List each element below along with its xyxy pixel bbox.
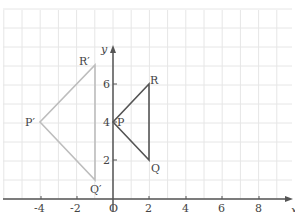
vertex-label-r-prime: R′ (79, 55, 90, 68)
x-axis-arrow-icon (285, 196, 293, 202)
x-tick-label: 6 (218, 202, 225, 212)
vertex-label-p-prime: P′ (25, 116, 35, 129)
x-tick-label: 2 (145, 202, 152, 212)
x-tick-label: -2 (70, 202, 81, 212)
y-tick-label: 6 (103, 78, 110, 91)
vertex-label-p: P (117, 116, 125, 129)
y-tick-label: 4 (103, 116, 110, 129)
x-axis-label: x (291, 204, 295, 212)
grid (3, 9, 292, 199)
origin-label: O (109, 202, 118, 212)
coordinate-plane: y x O -4 -2 2 4 6 8 2 4 6 P′ Q′ R′ P Q R (0, 0, 295, 212)
y-axis-label: y (100, 43, 108, 56)
vertex-label-q: Q (151, 162, 160, 175)
vertex-label-q-prime: Q′ (90, 183, 102, 196)
vertex-label-r: R (150, 74, 159, 87)
y-axis-arrow-icon (110, 45, 116, 53)
x-tick-label: -4 (34, 202, 45, 212)
x-tick-label: 8 (255, 202, 262, 212)
x-tick-label: 4 (182, 202, 189, 212)
y-tick-label: 2 (103, 154, 110, 167)
